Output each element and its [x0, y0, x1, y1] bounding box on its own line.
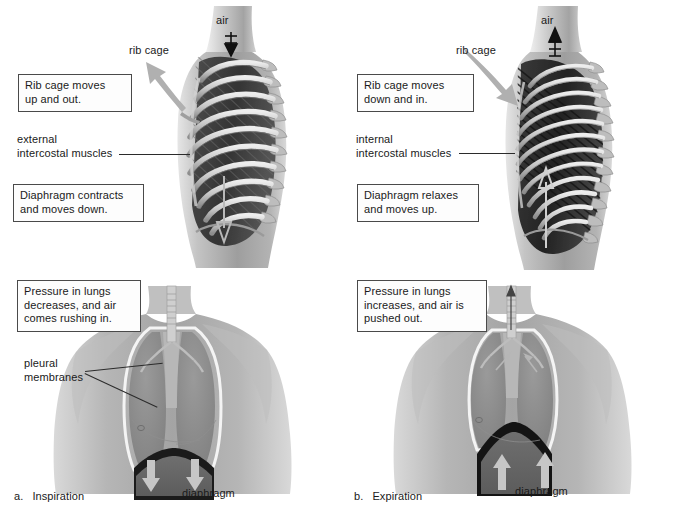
pleural-membranes-label: pleural membranes	[24, 357, 83, 384]
air-label: air	[216, 14, 229, 28]
callout-diaphragm-motion: Diaphragm relaxes and moves up.	[357, 184, 479, 222]
ribcage-label: rib cage	[456, 44, 496, 58]
callout-ribcage-motion: Rib cage moves up and out.	[18, 74, 132, 112]
caption-text: Expiration	[372, 490, 422, 502]
caption-text: Inspiration	[32, 490, 84, 502]
external-intercostal-label: external intercostal muscles	[17, 133, 112, 160]
panel-inspiration: rib cage air Rib cage moves up and out. …	[0, 0, 340, 521]
callout-ribcage-motion: Rib cage moves down and in.	[357, 74, 474, 112]
internal-intercostal-label: internal intercostal muscles	[356, 133, 451, 160]
caption-inspiration: a.Inspiration	[14, 490, 84, 502]
caption-letter: b.	[354, 490, 363, 502]
ribcage-label: rib cage	[129, 44, 169, 58]
diaphragm-label: diaphragm	[182, 487, 235, 501]
caption-letter: a.	[14, 490, 23, 502]
internal-intercostal-leader	[459, 153, 515, 154]
callout-diaphragm-motion: Diaphragm contracts and moves down.	[13, 184, 144, 222]
callout-pressure-change: Pressure in lungs decreases, and air com…	[17, 280, 141, 332]
air-label: air	[541, 14, 554, 28]
callout-pressure-change: Pressure in lungs increases, and air is …	[357, 280, 487, 332]
panel-expiration: rib cage air Rib cage moves down and in.…	[340, 0, 680, 521]
caption-expiration: b.Expiration	[354, 490, 422, 502]
diaphragm-label: diaphragm	[515, 485, 568, 499]
external-intercostal-leader	[119, 154, 190, 155]
